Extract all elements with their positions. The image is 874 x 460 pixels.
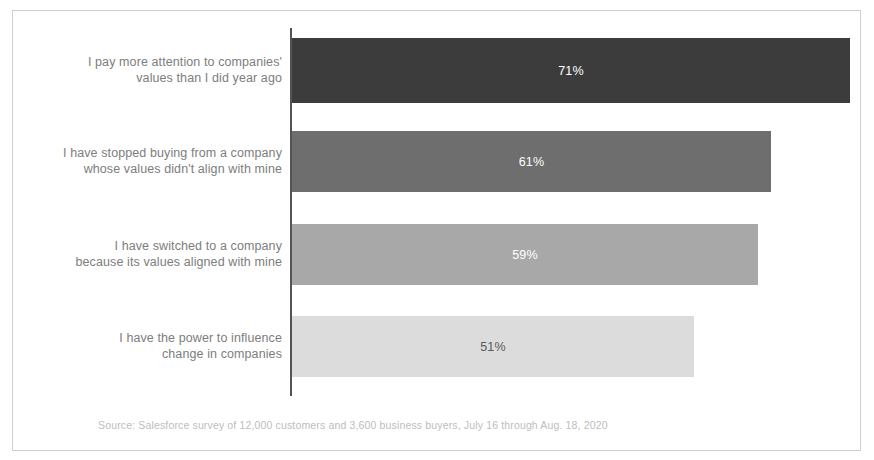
bar-row: I have the power to influence change in … xyxy=(0,316,874,377)
bar-track: 59% xyxy=(292,224,758,285)
plot-area: I pay more attention to companies' value… xyxy=(0,0,874,460)
bar-category-label-line1: I have the power to influence xyxy=(20,330,282,346)
bar-category-label: I pay more attention to companies' value… xyxy=(20,54,282,86)
bar-category-label: I have the power to influence change in … xyxy=(20,330,282,362)
bar-category-label: I have stopped buying from a company who… xyxy=(20,145,282,177)
bar-category-label-line1: I have switched to a company xyxy=(20,238,282,254)
bar-row: I have stopped buying from a company who… xyxy=(0,131,874,192)
bar-value-label: 71% xyxy=(292,38,850,103)
bar-row: I pay more attention to companies' value… xyxy=(0,38,874,103)
bar-category-label-line2: change in companies xyxy=(20,346,282,362)
bar-category-label: I have switched to a company because its… xyxy=(20,238,282,270)
bar-category-label-line1: I have stopped buying from a company xyxy=(20,145,282,161)
bar-value-label: 59% xyxy=(292,224,758,285)
bar-track: 51% xyxy=(292,316,694,377)
source-note: Source: Salesforce survey of 12,000 cust… xyxy=(98,419,608,431)
bar-category-label-line2: because its values aligned with mine xyxy=(20,254,282,270)
bar-track: 71% xyxy=(292,38,850,103)
bar-track: 61% xyxy=(292,131,771,192)
bar-category-label-line2: whose values didn't align with mine xyxy=(20,161,282,177)
bar-value-label: 51% xyxy=(292,316,694,377)
bar-value-label: 61% xyxy=(292,131,771,192)
bar-category-label-line2: values than I did year ago xyxy=(20,70,282,86)
bar-row: I have switched to a company because its… xyxy=(0,224,874,285)
bar-category-label-line1: I pay more attention to companies' xyxy=(20,54,282,70)
bar-chart-figure: I pay more attention to companies' value… xyxy=(0,0,874,460)
